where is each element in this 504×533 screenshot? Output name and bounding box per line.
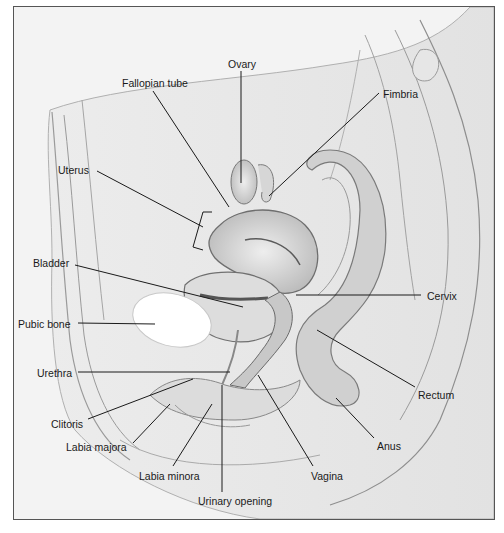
- label-ovary: Ovary: [228, 58, 256, 70]
- label-labia-minora: Labia minora: [139, 470, 200, 482]
- label-labia-majora: Labia majora: [66, 441, 127, 453]
- label-anus: Anus: [377, 440, 401, 452]
- label-uterus: Uterus: [58, 164, 89, 176]
- label-cervix: Cervix: [427, 290, 457, 302]
- label-fallopian-tube: Fallopian tube: [122, 77, 188, 89]
- label-urethra: Urethra: [37, 367, 72, 379]
- label-clitoris: Clitoris: [51, 418, 83, 430]
- label-urinary-opening: Urinary opening: [198, 495, 272, 507]
- ovary-shape: [231, 160, 257, 204]
- label-vagina: Vagina: [311, 470, 343, 482]
- label-fimbria: Fimbria: [383, 88, 418, 100]
- label-bladder: Bladder: [33, 257, 69, 269]
- label-rectum: Rectum: [418, 389, 454, 401]
- anatomy-illustration: [0, 0, 504, 533]
- label-pubic-bone: Pubic bone: [18, 318, 71, 330]
